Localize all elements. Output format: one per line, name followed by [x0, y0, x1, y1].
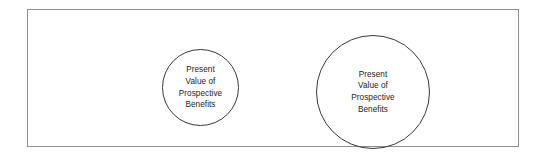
- circle-large-label-line-3: Prospective: [351, 92, 394, 104]
- circle-large-label-line-4: Benefits: [351, 104, 394, 116]
- circle-small-label-line-2: Value of: [179, 76, 222, 88]
- circle-small-label: Present Value of Prospective Benefits: [179, 64, 222, 110]
- circle-small-label-line-4: Benefits: [179, 99, 222, 111]
- circle-large-present-value-prospective-benefits: Present Value of Prospective Benefits: [316, 35, 430, 149]
- circle-large-label: Present Value of Prospective Benefits: [351, 69, 394, 115]
- diagram-frame: Present Value of Prospective Benefits Pr…: [27, 9, 519, 147]
- circle-large-label-line-2: Value of: [351, 80, 394, 92]
- circle-small-label-line-1: Present: [179, 64, 222, 76]
- circle-small-label-line-3: Prospective: [179, 88, 222, 100]
- circle-large-label-line-1: Present: [351, 69, 394, 81]
- figure-canvas: Present Value of Prospective Benefits Pr…: [0, 0, 545, 157]
- circle-small-present-value-prospective-benefits: Present Value of Prospective Benefits: [162, 49, 239, 126]
